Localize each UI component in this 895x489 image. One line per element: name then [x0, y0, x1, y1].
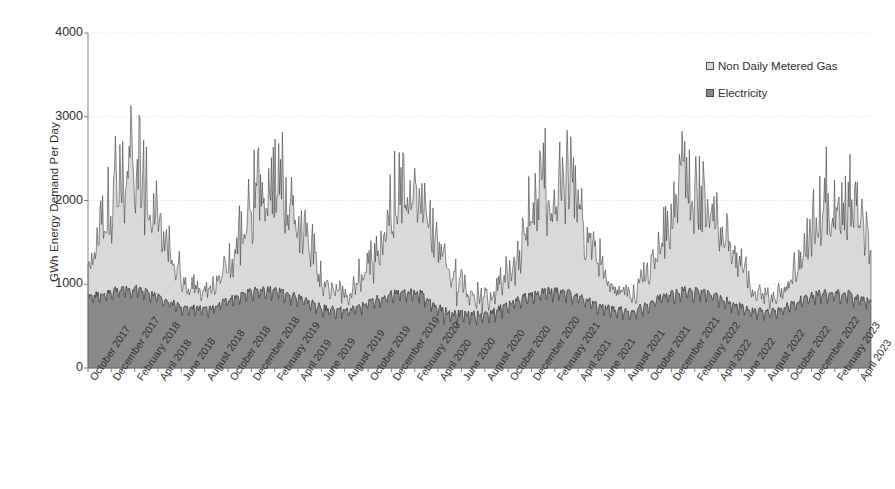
y-tick-4000: 4000: [37, 25, 83, 39]
y-tick-2000: 2000: [37, 193, 83, 207]
legend-label-electricity: Electricity: [718, 87, 767, 99]
y-axis-tick-labels: 40003000200010000: [35, 0, 83, 489]
legend-item-electricity: Electricity: [706, 87, 838, 99]
area-non-daily-metered-gas: [88, 106, 871, 327]
chart-legend: Non Daily Metered Gas Electricity: [706, 60, 838, 114]
legend-swatch-electricity-icon: [706, 89, 714, 97]
legend-item-gas: Non Daily Metered Gas: [706, 60, 838, 72]
energy-demand-chart: GWh Energy Demand Per Day 40003000200010…: [0, 0, 895, 489]
legend-swatch-gas-icon: [706, 62, 714, 70]
legend-label-gas: Non Daily Metered Gas: [718, 60, 838, 72]
y-tick-1000: 1000: [37, 276, 83, 290]
y-tick-3000: 3000: [37, 109, 83, 123]
y-tick-0: 0: [37, 360, 83, 374]
